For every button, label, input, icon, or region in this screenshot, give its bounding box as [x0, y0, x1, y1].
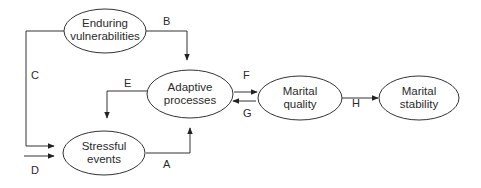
node-label-line2: stability — [400, 98, 439, 110]
edge-b: B — [146, 15, 187, 60]
edge-e: E — [107, 77, 147, 118]
edge-f: F — [234, 69, 257, 92]
node-label-line2: quality — [283, 98, 316, 110]
node-label-line1: Enduring — [82, 17, 128, 29]
edge-label-e: E — [124, 77, 131, 89]
node-enduring-vulnerabilities: Enduring vulnerabilities — [64, 9, 146, 53]
edge-label-g: G — [243, 107, 252, 119]
edge-label-c: C — [31, 69, 39, 81]
node-marital-quality: Marital quality — [258, 76, 342, 120]
edge-c: C — [26, 31, 64, 146]
edge-g: G — [233, 101, 256, 119]
edge-label-d: D — [31, 164, 39, 176]
node-label-line1: Stressful — [82, 140, 127, 152]
node-label-line2: processes — [164, 94, 217, 106]
edge-label-b: B — [163, 15, 170, 27]
node-label-line1: Marital — [283, 85, 318, 97]
node-label-line1: Marital — [402, 85, 437, 97]
edge-label-f: F — [243, 69, 250, 81]
edge-a: A — [146, 128, 190, 170]
edge-d: D — [24, 156, 54, 176]
edge-label-a: A — [163, 158, 171, 170]
edge-h: H — [342, 97, 378, 109]
node-stressful-events: Stressful events — [63, 131, 145, 175]
diagram-canvas: C D B E A F G H Enduring vulnerabilities — [0, 0, 481, 188]
edge-label-h: H — [352, 97, 360, 109]
node-label-line2: events — [87, 153, 121, 165]
node-marital-stability: Marital stability — [379, 76, 459, 120]
node-label-line2: vulnerabilities — [70, 30, 140, 42]
node-label-line1: Adaptive — [168, 81, 213, 93]
node-adaptive-processes: Adaptive processes — [147, 70, 233, 118]
